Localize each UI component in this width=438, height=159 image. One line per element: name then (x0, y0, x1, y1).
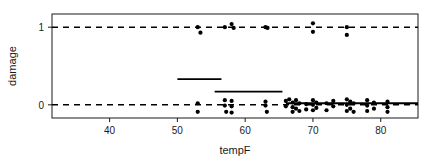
y-axis-ticks: 01 (38, 22, 52, 111)
data-points (196, 21, 390, 114)
data-point (294, 107, 298, 111)
data-point (284, 104, 288, 108)
data-point (311, 103, 315, 107)
data-point (324, 101, 328, 105)
data-point (345, 33, 349, 37)
data-point (331, 99, 335, 103)
x-axis-title: tempF (219, 144, 250, 156)
data-point (198, 31, 202, 35)
data-point (372, 100, 376, 104)
data-point (352, 101, 356, 105)
data-point (265, 110, 269, 114)
data-point (263, 103, 267, 107)
data-point (304, 102, 308, 106)
data-point (365, 103, 369, 107)
data-point (385, 100, 389, 104)
data-point (311, 21, 315, 25)
data-point (311, 98, 315, 102)
x-tick-label: 40 (104, 125, 116, 136)
chart-figure: 4050607080 01 tempF damage (0, 0, 438, 159)
reference-lines (52, 27, 418, 105)
data-point (385, 110, 389, 114)
data-point (196, 25, 200, 29)
data-point (314, 106, 318, 110)
x-tick-label: 80 (375, 125, 387, 136)
data-point (297, 109, 301, 113)
data-point (224, 110, 228, 114)
data-point (365, 109, 369, 113)
data-point (230, 110, 234, 114)
data-point (345, 109, 349, 113)
data-point (372, 107, 376, 111)
x-axis-ticks: 4050607080 (104, 118, 387, 136)
data-point (265, 26, 269, 30)
data-point (232, 26, 236, 30)
data-point (345, 25, 349, 29)
data-point (223, 25, 227, 29)
x-tick-label: 60 (240, 125, 252, 136)
data-point (294, 98, 298, 102)
data-point (230, 22, 234, 26)
x-tick-label: 70 (307, 125, 319, 136)
y-tick-label: 1 (38, 22, 44, 33)
y-axis-title: damage (6, 46, 18, 86)
data-point (345, 97, 349, 101)
data-point (223, 98, 227, 102)
data-point (331, 104, 335, 108)
data-point (230, 99, 234, 103)
data-point (291, 110, 295, 114)
data-point (196, 110, 200, 114)
data-point (230, 104, 234, 108)
data-point (263, 100, 267, 104)
data-point (365, 98, 369, 102)
data-point (348, 107, 352, 111)
data-point (297, 101, 301, 105)
data-point (385, 105, 389, 109)
data-point (345, 103, 349, 107)
data-point (352, 110, 356, 114)
data-point (287, 97, 291, 101)
data-point (196, 101, 200, 105)
data-point (304, 107, 308, 111)
data-point (311, 108, 315, 112)
y-tick-label: 0 (38, 100, 44, 111)
data-point (324, 108, 328, 112)
data-point (291, 100, 295, 104)
data-point (223, 103, 227, 107)
x-tick-label: 50 (172, 125, 184, 136)
scatter-plot: 4050607080 01 tempF damage (0, 0, 438, 159)
data-point (311, 30, 315, 34)
data-point (314, 100, 318, 104)
